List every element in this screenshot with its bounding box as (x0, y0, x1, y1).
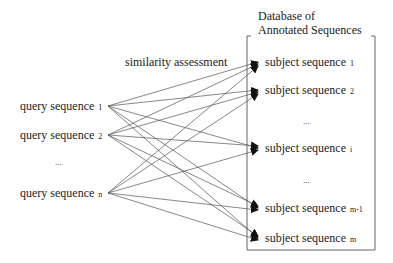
subject-ellipsis-2: ... (303, 173, 310, 187)
subject-sequence-1: subject sequence1 (265, 55, 354, 71)
subject-sequence-m: subject sequencem (265, 231, 356, 247)
subject-sequence-m-1: subject sequencem-1 (265, 201, 363, 217)
query-ellipsis: ... (55, 155, 62, 169)
subject-sequence-i: subject sequencei (265, 141, 352, 157)
database-title-line2: Annotated Sequences (258, 23, 362, 37)
query-sequence-2: query sequence2 (20, 128, 102, 144)
database-title-line1: Database of (258, 9, 315, 23)
subject-sequence-2: subject sequence2 (265, 83, 354, 99)
query-sequence-1: query sequence1 (20, 99, 102, 115)
similarity-assessment-label: similarity assessment (125, 55, 227, 69)
query-sequence-n: query sequencen (20, 186, 102, 202)
subject-ellipsis-1: ... (303, 114, 310, 128)
